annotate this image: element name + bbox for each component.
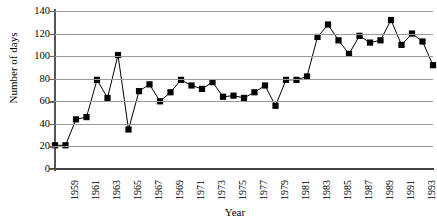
data-point-marker bbox=[335, 37, 341, 43]
data-point-marker bbox=[377, 37, 383, 43]
chart-figure: Number of days 020406080100120140 195919… bbox=[0, 0, 437, 222]
x-axis-tick-labels: 1959196119631965196719691971197319751977… bbox=[55, 172, 433, 206]
data-point-marker bbox=[398, 42, 404, 48]
data-point-marker bbox=[115, 52, 121, 58]
y-tick-label: 0 bbox=[22, 164, 50, 175]
x-tick-label: 1993 bbox=[427, 180, 437, 200]
gridline bbox=[55, 101, 433, 102]
y-tick-label: 80 bbox=[22, 74, 50, 85]
x-tick-label: 1983 bbox=[322, 180, 332, 200]
x-tick-label: 1973 bbox=[217, 180, 227, 200]
y-axis-title: Number of days bbox=[7, 3, 19, 133]
data-point-marker bbox=[125, 126, 131, 132]
data-point-marker bbox=[188, 82, 194, 88]
y-tick-mark bbox=[49, 56, 55, 57]
y-tick-label: 140 bbox=[22, 6, 50, 17]
series-polyline bbox=[55, 20, 433, 145]
y-tick-label: 20 bbox=[22, 141, 50, 152]
gridline bbox=[55, 56, 433, 57]
y-tick-mark bbox=[49, 169, 55, 170]
gridline bbox=[55, 11, 433, 12]
data-point-marker bbox=[272, 103, 278, 109]
data-point-marker bbox=[262, 82, 268, 88]
data-series-line bbox=[55, 11, 433, 169]
x-tick-label: 1965 bbox=[133, 180, 143, 200]
y-tick-mark bbox=[49, 124, 55, 125]
data-point-marker bbox=[167, 89, 173, 95]
y-tick-mark bbox=[49, 11, 55, 12]
y-tick-label: 120 bbox=[22, 29, 50, 40]
x-tick-label: 1971 bbox=[196, 180, 206, 200]
data-point-marker bbox=[178, 77, 184, 83]
data-point-marker bbox=[314, 34, 320, 40]
data-point-marker bbox=[73, 116, 79, 122]
y-tick-mark bbox=[49, 34, 55, 35]
x-tick-label: 1977 bbox=[259, 180, 269, 200]
x-tick-label: 1959 bbox=[70, 180, 80, 200]
gridline bbox=[55, 34, 433, 35]
x-tick-label: 1969 bbox=[175, 180, 185, 200]
data-point-marker bbox=[136, 88, 142, 94]
y-tick-mark bbox=[49, 146, 55, 147]
plot-area bbox=[55, 11, 433, 169]
gridline bbox=[55, 124, 433, 125]
x-tick-label: 1979 bbox=[280, 180, 290, 200]
x-tick-label: 1967 bbox=[154, 180, 164, 200]
data-point-marker bbox=[146, 81, 152, 87]
data-point-marker bbox=[388, 17, 394, 23]
x-tick-label: 1985 bbox=[343, 180, 353, 200]
data-point-marker bbox=[104, 95, 110, 101]
x-tick-label: 1991 bbox=[406, 180, 416, 200]
x-tick-label: 1961 bbox=[91, 180, 101, 200]
chart-title-cutoff bbox=[250, 0, 400, 3]
data-point-marker bbox=[230, 93, 236, 99]
data-point-marker bbox=[62, 142, 68, 148]
x-tick-label: 1987 bbox=[364, 180, 374, 200]
x-axis-title: Year bbox=[205, 206, 265, 218]
data-point-marker bbox=[83, 114, 89, 120]
x-tick-label: 1975 bbox=[238, 180, 248, 200]
y-tick-mark bbox=[49, 101, 55, 102]
gridline bbox=[55, 79, 433, 80]
y-tick-label: 40 bbox=[22, 119, 50, 130]
data-point-marker bbox=[209, 79, 215, 85]
gridline bbox=[55, 146, 433, 147]
data-point-marker bbox=[419, 38, 425, 44]
x-tick-label: 1989 bbox=[385, 180, 395, 200]
data-point-marker bbox=[241, 95, 247, 101]
y-tick-label: 100 bbox=[22, 51, 50, 62]
y-tick-mark bbox=[49, 79, 55, 80]
data-point-marker bbox=[199, 86, 205, 92]
data-point-marker bbox=[325, 21, 331, 27]
data-point-marker bbox=[430, 62, 436, 68]
data-point-marker bbox=[367, 40, 373, 46]
data-point-marker bbox=[251, 89, 257, 95]
x-tick-label: 1981 bbox=[301, 180, 311, 200]
x-tick-label: 1963 bbox=[112, 180, 122, 200]
data-point-marker bbox=[94, 77, 100, 83]
y-axis-tick-labels: 020406080100120140 bbox=[22, 0, 50, 175]
data-point-marker bbox=[293, 77, 299, 83]
data-point-marker bbox=[283, 77, 289, 83]
y-tick-label: 60 bbox=[22, 96, 50, 107]
data-point-marker bbox=[220, 94, 226, 100]
